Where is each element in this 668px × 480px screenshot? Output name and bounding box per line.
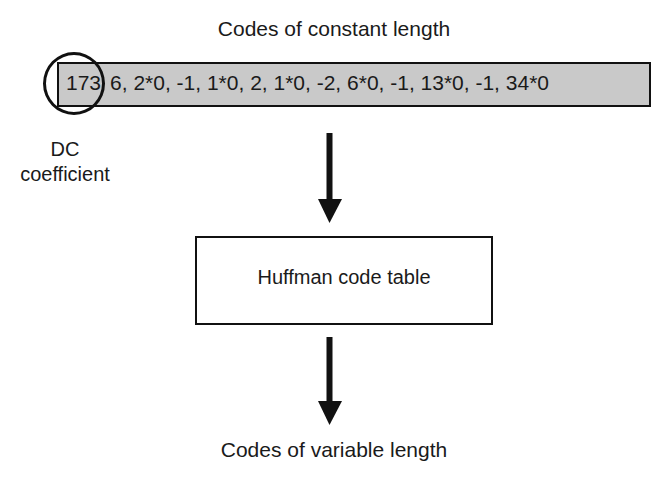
arrow-down-icon — [310, 133, 350, 225]
arrow-down-icon — [310, 337, 350, 429]
ac-coefficient-values: 6, 2*0, -1, 1*0, 2, 1*0, -2, 6*0, -1, 13… — [110, 71, 549, 94]
huffman-code-table-label: Huffman code table — [195, 266, 493, 289]
dc-highlight-circle — [43, 52, 105, 115]
dc-label-line1: DC — [10, 137, 120, 162]
dc-coefficient-label: DC coefficient — [10, 137, 120, 187]
constant-length-codes-title: Codes of constant length — [0, 17, 668, 41]
coefficient-sequence: 1736, 2*0, -1, 1*0, 2, 1*0, -2, 6*0, -1,… — [66, 66, 549, 100]
variable-length-codes-title: Codes of variable length — [0, 438, 668, 462]
dc-label-line2: coefficient — [10, 162, 120, 187]
